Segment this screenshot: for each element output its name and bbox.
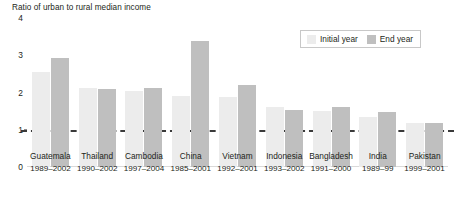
x-axis-category-label: Vietnam1992–2001: [214, 151, 261, 174]
x-axis-category-label: Indonesia1993–2002: [261, 151, 308, 174]
x-axis-category-label: India1989–99: [354, 151, 401, 174]
bar: [191, 41, 209, 167]
category-period: 1989–99: [354, 163, 401, 175]
category-period: 1991–2000: [308, 163, 355, 175]
chart-legend: Initial year End year: [300, 30, 421, 48]
x-axis-category-label: Thailand1990–2002: [74, 151, 121, 174]
category-period: 1990–2002: [74, 163, 121, 175]
legend-swatch-initial-year: [307, 35, 316, 44]
category-name: Pakistan: [409, 151, 441, 161]
category-period: 1993–2002: [261, 163, 308, 175]
category-name: Cambodia: [125, 151, 163, 161]
y-axis-tick-label: 2: [18, 88, 23, 98]
x-axis-category-label: Guatemala1989–2002: [27, 151, 74, 174]
x-axis-category-label: China1985–2001: [167, 151, 214, 174]
y-axis-tick-label: 3: [18, 50, 23, 60]
category-period: 1989–2002: [27, 163, 74, 175]
x-axis-category-label: Pakistan1999–2001: [401, 151, 448, 174]
chart-title: Ratio of urban to rural median income: [12, 3, 151, 12]
chart-container: Ratio of urban to rural median income 01…: [0, 0, 455, 205]
legend-entry-end-year: End year: [367, 34, 413, 44]
legend-label-initial-year: Initial year: [320, 34, 358, 44]
category-name: Guatemala: [30, 151, 71, 161]
category-name: Bangladesh: [309, 151, 353, 161]
bar-group: [167, 41, 214, 167]
legend-entry-initial-year: Initial year: [307, 34, 358, 44]
x-axis-category-label: Cambodia1997–2004: [121, 151, 168, 174]
category-name: Vietnam: [222, 151, 252, 161]
category-period: 1985–2001: [167, 163, 214, 175]
legend-swatch-end-year: [367, 35, 376, 44]
y-axis-tick-label: 4: [18, 13, 23, 23]
category-name: Indonesia: [266, 151, 302, 161]
category-period: 1997–2004: [121, 163, 168, 175]
category-name: China: [180, 151, 202, 161]
x-axis-category-label: Bangladesh1991–2000: [308, 151, 355, 174]
category-name: Thailand: [81, 151, 113, 161]
category-period: 1999–2001: [401, 163, 448, 175]
category-period: 1992–2001: [214, 163, 261, 175]
legend-label-end-year: End year: [380, 34, 413, 44]
y-axis-tick-label: 0: [18, 162, 23, 172]
category-name: India: [369, 151, 387, 161]
